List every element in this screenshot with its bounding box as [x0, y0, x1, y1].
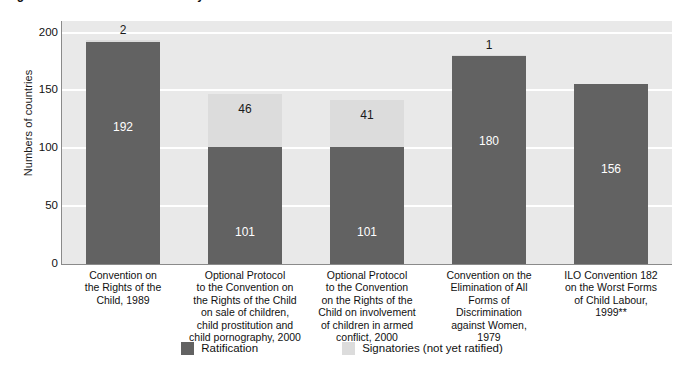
- bar-value-ratified: 192: [86, 120, 160, 134]
- bar-group[interactable]: 10141: [330, 100, 404, 264]
- x-label-line: of Child Labour,: [574, 294, 648, 306]
- x-label-line: Convention on: [89, 269, 157, 281]
- x-label-line: Optional Protocol: [327, 269, 408, 281]
- x-label-line: Optional Protocol: [205, 269, 286, 281]
- x-axis-line: [62, 264, 672, 265]
- x-axis-category-labels: Convention onthe Rights of theChild, 198…: [62, 269, 672, 339]
- y-axis-tick-label: 100: [24, 142, 58, 153]
- bar-value-signatory: 1: [452, 38, 526, 52]
- x-label-line: the Rights of the Child: [193, 294, 296, 306]
- bar-segment-signatory[interactable]: 41: [330, 100, 404, 147]
- bar-value-ratified: 156: [574, 162, 648, 176]
- y-axis-tick-label: 0: [24, 258, 58, 269]
- chart-legend: RatificationSignatories (not yet ratifie…: [0, 337, 684, 359]
- bar-group[interactable]: 10146: [208, 94, 282, 264]
- bar-segment-signatory[interactable]: 1: [452, 55, 526, 56]
- y-axis-tick-label: 150: [24, 84, 58, 95]
- bar-value-ratified: 101: [208, 225, 282, 239]
- x-label-line: to the Convention on: [197, 281, 294, 293]
- bar-value-signatory: 2: [86, 23, 160, 37]
- x-label-line: Child on involvement: [318, 306, 415, 318]
- bar-value-signatory: 41: [330, 108, 404, 122]
- bar-value-signatory: 46: [208, 102, 282, 116]
- bar-segment-ratified[interactable]: 101: [330, 147, 404, 264]
- x-label-line: 1999**: [595, 306, 627, 318]
- x-label-line: Forms of: [468, 294, 509, 306]
- x-axis-category-label: Convention on theElimination of AllForms…: [428, 269, 550, 343]
- bar-group[interactable]: 1801: [452, 55, 526, 264]
- bar-segment-signatory[interactable]: 46: [208, 94, 282, 147]
- bar-segment-ratified[interactable]: 101: [208, 147, 282, 264]
- legend-item[interactable]: Signatories (not yet ratified): [342, 342, 503, 355]
- x-label-line: Child, 1989: [96, 294, 149, 306]
- x-axis-category-label: ILO Convention 182on the Worst Formsof C…: [550, 269, 672, 319]
- bar-chart: Numbers of countries 200150100500 192210…: [0, 9, 684, 375]
- bar-segment-signatory[interactable]: 2: [86, 40, 160, 42]
- x-label-line: Elimination of All: [450, 281, 527, 293]
- x-label-line: ILO Convention 182: [564, 269, 657, 281]
- y-axis-line: [61, 21, 62, 265]
- x-axis-category-label: Optional Protocolto the Convention onthe…: [184, 269, 306, 343]
- bar-group[interactable]: 156: [574, 84, 648, 265]
- x-label-line: child prostitution and: [197, 319, 293, 331]
- legend-label: Ratification: [201, 342, 258, 354]
- x-label-line: the Rights of the: [85, 281, 161, 293]
- x-label-line: of children in armed: [321, 319, 413, 331]
- y-axis-tick-label: 50: [24, 200, 58, 211]
- bar-group[interactable]: 1922: [86, 40, 160, 264]
- legend-item[interactable]: Ratification: [181, 342, 258, 355]
- x-axis-category-label: Optional Protocolto the Conventionon the…: [306, 269, 428, 343]
- figure-title: Figure: Status of ratification of key in…: [6, 0, 351, 2]
- y-axis-ticks: 200150100500: [20, 9, 58, 269]
- x-label-line: on the Rights of the: [321, 294, 412, 306]
- legend-label: Signatories (not yet ratified): [362, 342, 503, 354]
- x-label-line: on sale of children,: [201, 306, 289, 318]
- x-label-line: against Women,: [451, 319, 527, 331]
- x-label-line: on the Worst Forms: [565, 281, 657, 293]
- legend-swatch-icon: [342, 342, 355, 355]
- bar-value-ratified: 180: [452, 134, 526, 148]
- x-label-line: Convention on the: [446, 269, 531, 281]
- plot-area: 192210146101411801156: [62, 21, 672, 264]
- bar-value-ratified: 101: [330, 225, 404, 239]
- bar-segment-ratified[interactable]: 180: [452, 56, 526, 264]
- bar-segment-ratified[interactable]: 192: [86, 42, 160, 264]
- bar-segment-ratified[interactable]: 156: [574, 84, 648, 265]
- x-axis-category-label: Convention onthe Rights of theChild, 198…: [62, 269, 184, 306]
- figure-title-strip: Figure: Status of ratification of key in…: [0, 0, 684, 9]
- x-label-line: to the Convention: [326, 281, 408, 293]
- y-axis-tick-label: 200: [24, 27, 58, 38]
- legend-swatch-icon: [181, 342, 194, 355]
- x-label-line: Discrimination: [456, 306, 522, 318]
